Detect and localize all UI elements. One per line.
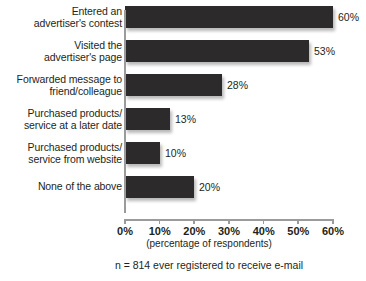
bar-track: 10% xyxy=(125,142,366,164)
x-tick-label: 30% xyxy=(218,225,240,238)
bar xyxy=(125,108,170,130)
x-tick xyxy=(228,219,230,224)
x-axis-caption: (percentage of respondents) xyxy=(0,238,366,250)
category-label: Purchased products/ service at a later d… xyxy=(0,108,122,131)
bar-value-label: 10% xyxy=(165,148,186,159)
x-tick-label: 20% xyxy=(183,225,205,238)
bar xyxy=(125,74,222,96)
y-axis-line xyxy=(124,10,126,213)
bar xyxy=(125,6,333,28)
bar-row: Purchased products/ service from website… xyxy=(0,142,366,164)
category-label: None of the above xyxy=(0,181,122,193)
bar-row: Visited the advertiser's page 53% xyxy=(0,40,366,62)
x-tick-label: 40% xyxy=(253,225,275,238)
bar-value-label: 53% xyxy=(314,46,335,57)
category-label: Entered an advertiser's contest xyxy=(0,6,122,29)
bar-track: 60% xyxy=(125,6,366,28)
x-tick xyxy=(193,219,195,224)
x-tick-label: 0% xyxy=(117,225,133,238)
x-tick xyxy=(297,219,299,224)
x-tick xyxy=(263,219,265,224)
plot-area: Entered an advertiser's contest 60% Visi… xyxy=(0,6,366,213)
bar-value-label: 20% xyxy=(199,182,220,193)
bar-row: Purchased products/ service at a later d… xyxy=(0,108,366,130)
x-tick xyxy=(332,219,334,224)
bar-track: 13% xyxy=(125,108,366,130)
x-axis-tick-labels: 0% 10% 20% 30% 40% 50% 60% xyxy=(0,225,366,239)
sample-size-note: n = 814 ever registered to receive e-mai… xyxy=(0,259,366,272)
bar-track: 28% xyxy=(125,74,366,96)
bar xyxy=(125,142,160,164)
bar-track: 53% xyxy=(125,40,366,62)
bar-value-label: 28% xyxy=(227,80,248,91)
x-tick-label: 10% xyxy=(149,225,171,238)
bar xyxy=(125,176,194,198)
bar-chart: Entered an advertiser's contest 60% Visi… xyxy=(0,0,366,281)
bar-row: Forwarded message to friend/colleague 28… xyxy=(0,74,366,96)
x-tick xyxy=(124,219,126,224)
bar-value-label: 13% xyxy=(175,114,196,125)
sample-size-note-text: n = 814 ever registered to receive e-mai… xyxy=(115,259,303,272)
bar-row: Entered an advertiser's contest 60% xyxy=(0,6,366,28)
bar-value-label: 60% xyxy=(338,12,359,23)
x-tick-label: 50% xyxy=(287,225,309,238)
category-label: Visited the advertiser's page xyxy=(0,40,122,63)
x-tick xyxy=(159,219,161,224)
x-tick-label: 60% xyxy=(322,225,344,238)
bar xyxy=(125,40,309,62)
category-label: Purchased products/ service from website xyxy=(0,142,122,165)
bar-row: None of the above 20% xyxy=(0,176,366,198)
bar-track: 20% xyxy=(125,176,366,198)
bar-rows: Entered an advertiser's contest 60% Visi… xyxy=(0,6,366,210)
x-axis-caption-text: (percentage of respondents) xyxy=(146,238,272,250)
category-label: Forwarded message to friend/colleague xyxy=(0,74,122,97)
